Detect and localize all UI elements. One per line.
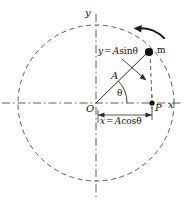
mass-label: m — [157, 46, 166, 55]
motion-arrowhead-icon — [134, 25, 142, 33]
p-dot-icon — [149, 100, 154, 105]
x-component-function: cos — [121, 116, 136, 126]
y-component-equation: y=Asinθ — [98, 47, 138, 56]
amplitude-label: A — [111, 71, 118, 81]
x-component-angle: θ — [136, 116, 141, 126]
point-p-label: P — [155, 103, 162, 113]
y-axis-label: y — [85, 8, 91, 18]
y-component-operator: = — [103, 46, 113, 56]
origin-label: O — [86, 104, 94, 114]
projection-drop-line — [150, 52, 152, 101]
x-component-equation: x=Acosθ — [100, 117, 142, 126]
circular-motion-figure: y x O P m A θ y=Asinθ x=Acosθ — [0, 0, 188, 201]
angle-label: θ — [117, 89, 122, 98]
y-component-angle: θ — [132, 46, 137, 56]
x-axis-label: x — [168, 100, 174, 110]
y-component-function: sin — [119, 46, 132, 56]
x-component-operator: = — [105, 116, 115, 126]
mass-dot-icon — [145, 48, 153, 56]
dimension-arrowhead-right-icon — [146, 113, 153, 118]
figure-canvas — [0, 0, 188, 201]
